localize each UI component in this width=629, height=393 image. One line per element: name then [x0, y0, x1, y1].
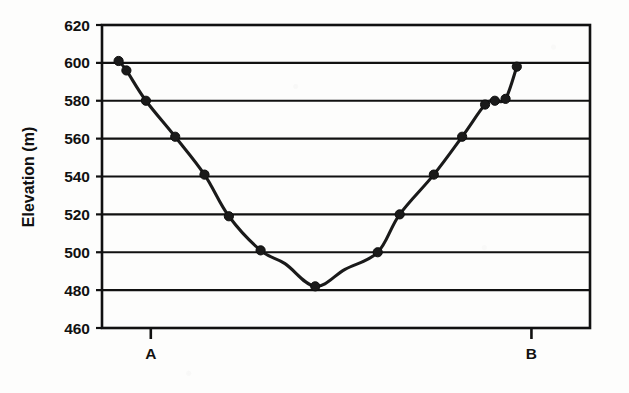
elevation-profile-figure: 620600580560540520500480460 AB Elevation…: [0, 0, 629, 393]
chart-canvas: 620600580560540520500480460 AB Elevation…: [0, 0, 629, 393]
y-tick-label: 460: [64, 320, 90, 337]
y-axis-title: Elevation (m): [20, 127, 37, 227]
data-point: [122, 66, 131, 75]
data-point: [200, 170, 209, 179]
y-tick-label: 480: [64, 282, 90, 299]
y-tick-label: 500: [64, 244, 90, 261]
y-tick-label: 560: [64, 130, 90, 147]
data-point: [501, 94, 510, 103]
data-point: [224, 212, 233, 221]
data-point: [512, 62, 521, 71]
x-tick-label: A: [145, 345, 156, 362]
data-point: [429, 170, 438, 179]
y-tick-label: 600: [64, 54, 90, 71]
y-axis-tick-labels: 620600580560540520500480460: [64, 17, 90, 337]
data-point: [490, 96, 499, 105]
data-point: [395, 210, 404, 219]
y-tick-label: 520: [64, 206, 90, 223]
data-point: [141, 96, 150, 105]
y-tick-label: 620: [64, 17, 90, 34]
data-point: [256, 246, 265, 255]
data-point: [311, 282, 320, 291]
data-point: [114, 56, 123, 65]
x-tick-label: B: [526, 345, 537, 362]
y-tick-label: 540: [64, 168, 90, 185]
x-axis-ticks: AB: [145, 328, 537, 362]
data-point-markers: [114, 56, 521, 291]
y-tick-label: 580: [64, 92, 90, 109]
data-point: [458, 132, 467, 141]
data-point: [171, 132, 180, 141]
data-point: [373, 248, 382, 257]
horizontal-gridlines: [102, 63, 590, 290]
data-point: [480, 100, 489, 109]
